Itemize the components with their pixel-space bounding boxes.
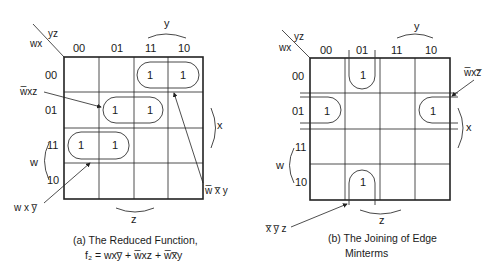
group-label-wbar-x-zbar: w̅xz̅ xyxy=(463,67,482,78)
caption-a-line2: f₂ = wxy̅ + w̅xz + w̅x̅y xyxy=(85,249,183,261)
col-header: 11 xyxy=(145,42,156,54)
group-label-wbar-x-z: w̅xz xyxy=(19,86,37,97)
group-label-w-x-ybar: w x y̅ xyxy=(13,202,37,213)
cell-value: 1 xyxy=(324,105,330,117)
corner-label-wx: wx xyxy=(29,38,42,49)
cell-value: 1 xyxy=(147,104,153,116)
var-z-label: z xyxy=(131,213,137,225)
kmap-b: yz wx 00 01 11 10 00 01 11 10 y x w z 1 … xyxy=(265,20,481,259)
row-header: 00 xyxy=(45,69,57,81)
cell-value: 1 xyxy=(180,69,186,81)
col-header: 00 xyxy=(320,44,332,56)
var-w-label: w xyxy=(275,159,284,171)
col-header: 01 xyxy=(111,42,123,54)
var-z-label: z xyxy=(379,214,385,226)
caption-a-line1: (a) The Reduced Function, xyxy=(73,234,198,246)
var-x-label: x xyxy=(217,119,223,131)
group-loop-right xyxy=(419,97,458,123)
row-header: 11 xyxy=(47,139,58,151)
cell-value: 1 xyxy=(112,139,118,151)
corner-label-wx: wx xyxy=(278,42,291,53)
var-x-label: x xyxy=(466,121,472,133)
col-header: 10 xyxy=(178,42,190,54)
cell-value: 1 xyxy=(78,139,84,151)
col-header: 01 xyxy=(356,44,368,56)
cell-value: 1 xyxy=(430,105,436,117)
row-header: 11 xyxy=(295,141,306,153)
caption-b-line1: (b) The Joining of Edge xyxy=(328,232,437,244)
col-header: 00 xyxy=(73,42,85,54)
group-loop-left xyxy=(300,97,341,123)
cell-value: 1 xyxy=(360,69,366,81)
cell-value: 1 xyxy=(112,104,118,116)
var-w-label: w xyxy=(29,156,38,168)
kmap-a: yz wx 00 01 11 10 00 01 11 10 y x w z 1 xyxy=(13,17,228,261)
var-y-label: y xyxy=(164,17,170,29)
caption-b-line2: Minterms xyxy=(345,247,388,259)
row-header: 01 xyxy=(292,105,304,117)
corner-label-yz: yz xyxy=(48,28,58,39)
col-header: 11 xyxy=(391,44,402,56)
row-header: 01 xyxy=(45,104,57,116)
corner-label-yz: yz xyxy=(294,31,304,42)
cell-value: 1 xyxy=(360,176,366,188)
group-label-wbar-xbar-y: w̅ x̅ y xyxy=(204,185,228,196)
col-header: 10 xyxy=(425,44,437,56)
row-header: 10 xyxy=(295,176,307,188)
var-y-label: y xyxy=(414,20,420,32)
row-header: 00 xyxy=(292,70,304,82)
group-label-xbar-ybar-z: x̅ y̅ z xyxy=(265,223,286,234)
cell-value: 1 xyxy=(147,69,153,81)
